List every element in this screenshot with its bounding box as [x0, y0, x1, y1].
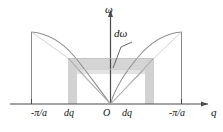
dispersion-figure: ω dω q -π/a -π/a dq O dq — [0, 0, 223, 132]
dq-band-right — [145, 58, 154, 104]
dq-band-left — [68, 58, 77, 104]
x-axis-label: q — [211, 107, 217, 118]
tick-label-left: -π/a — [31, 108, 47, 118]
x-axis-arrow — [201, 101, 208, 106]
construction-line-right-inner — [111, 69, 146, 104]
tick-label-right: -π/a — [169, 108, 185, 118]
dq-label-left: dq — [64, 108, 74, 118]
y-axis-label: ω — [105, 4, 113, 15]
wedge-edge-right — [154, 32, 182, 58]
construction-line-left-inner — [77, 69, 111, 104]
domega-label: dω — [114, 28, 127, 39]
dq-label-right: dq — [122, 108, 132, 118]
origin-label: O — [103, 108, 110, 118]
